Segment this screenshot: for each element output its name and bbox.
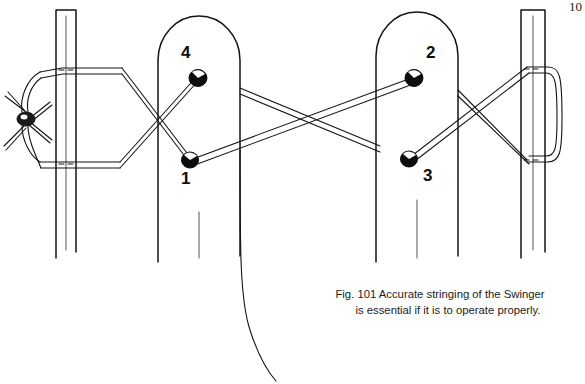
knob-4: [189, 70, 207, 87]
string-knob3-to-right-upper: [409, 67, 529, 164]
figure-caption: Fig. 101 Accurate stringing of the Swing…: [300, 286, 580, 318]
string-mid-to-right-lower: [458, 90, 529, 164]
knob-3: [401, 151, 418, 167]
post-left-decoy-body: [158, 16, 240, 262]
string-knob1-to-knob2: [190, 77, 416, 166]
page-number: 10: [569, 0, 583, 12]
stake-pass-dashes-right: [524, 69, 538, 160]
knob-label-1: 1: [181, 170, 190, 187]
caption-line-1: Fig. 101 Accurate stringing of the Swing…: [300, 286, 580, 302]
string-left-lower: [40, 75, 198, 168]
caption-line-2: is essential if it is to operate properl…: [300, 302, 580, 318]
knob-2: [405, 70, 423, 87]
knot-body: [17, 112, 35, 126]
knob-1: [182, 152, 199, 168]
swinger-stringing-diagram: .ink { fill: none; stroke: #141414; stro…: [0, 0, 585, 384]
trailing-line: [240, 150, 276, 381]
knob-label-4: 4: [181, 44, 190, 61]
figure-page: .ink { fill: none; stroke: #141414; stro…: [0, 0, 585, 384]
knob-label-3: 3: [423, 167, 432, 184]
knob-label-2: 2: [426, 44, 435, 61]
post-left-stake: [56, 10, 76, 258]
post-right-stake: [521, 10, 545, 258]
